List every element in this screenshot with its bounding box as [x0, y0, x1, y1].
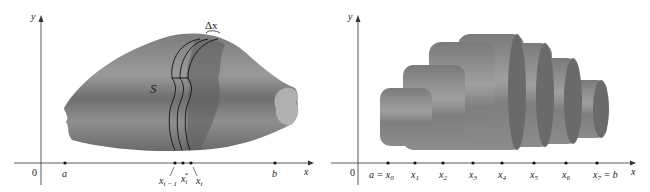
- delta-x-bracket: [206, 31, 220, 33]
- y-axis-arrow-icon: [356, 15, 361, 22]
- y-axis-label: y: [347, 11, 353, 22]
- delta-x-label: Δx: [205, 19, 218, 31]
- tick-x6: x6: [561, 169, 570, 182]
- x-axis-label: x: [630, 166, 636, 177]
- solid-with-slice-figure: Δx S y x 0 a b xi − 1 xi* xi: [0, 0, 325, 192]
- solid-s: [64, 34, 298, 152]
- tick-x5: x5: [529, 169, 538, 182]
- tick-x1: x1: [410, 169, 419, 182]
- slab-1: [380, 88, 432, 146]
- tick-x0: a = x0: [369, 169, 394, 182]
- tick-x2: x2: [438, 169, 447, 182]
- tick-x7: x7 = b: [592, 169, 618, 182]
- solid-label: S: [150, 81, 157, 96]
- tick-xi-minus-1: xi − 1: [158, 175, 177, 188]
- y-axis-label: y: [30, 11, 36, 22]
- tick-xi: xi: [195, 175, 202, 188]
- origin-label: 0: [32, 167, 37, 178]
- tick-xi-star: xi*: [180, 171, 188, 186]
- tick-x3: x3: [468, 169, 477, 182]
- solid-end-cap: [274, 88, 298, 125]
- slab-approximation-figure: y x 0 a = x0 x1 x2 x3 x4 x5 x6 x7 = b: [325, 0, 650, 192]
- slabs-diagram: y x 0 a = x0 x1 x2 x3 x4 x5 x6 x7 = b: [325, 0, 650, 192]
- y-axis-arrow-icon: [39, 15, 44, 22]
- tick-x4: x4: [497, 169, 506, 182]
- x-axis-label: x: [303, 166, 309, 177]
- tick-b: b: [272, 168, 277, 179]
- x-axis-arrow-icon: [630, 161, 636, 166]
- origin-label: 0: [350, 167, 355, 178]
- solid-diagram: Δx S y x 0 a b xi − 1 xi* xi: [0, 0, 325, 192]
- slabs: [380, 34, 609, 150]
- x-axis-arrow-icon: [308, 161, 314, 166]
- tick-a: a: [62, 168, 67, 179]
